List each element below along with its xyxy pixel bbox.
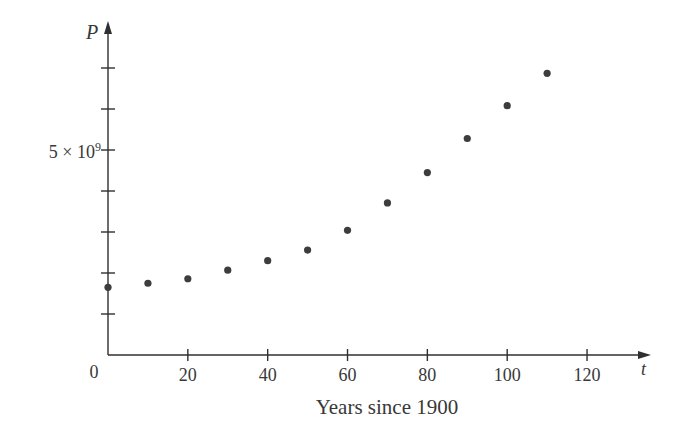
data-point [504, 102, 511, 109]
y-axis-arrowhead-icon [104, 21, 112, 34]
data-point [104, 284, 111, 291]
data-point [384, 199, 391, 206]
data-point [424, 169, 431, 176]
x-tick-label: 40 [259, 365, 277, 385]
x-tick-label: 60 [339, 365, 357, 385]
x-axis-arrowhead-icon [638, 351, 651, 359]
y-axis-tick-label-base: 5 × 10 [49, 142, 95, 162]
data-point [184, 275, 191, 282]
y-axis-tick-label-exponent: 9 [95, 140, 101, 154]
data-point [464, 135, 471, 142]
data-point [544, 70, 551, 77]
scatter-plot-canvas: 20406080100120 [0, 0, 694, 428]
x-tick-label: 100 [494, 365, 521, 385]
x-tick-label: 120 [574, 365, 601, 385]
data-point [224, 267, 231, 274]
y-axis-symbol: P [86, 22, 98, 42]
data-point [344, 227, 351, 234]
origin-label: 0 [85, 363, 103, 381]
data-point [144, 280, 151, 287]
x-tick-label: 20 [179, 365, 197, 385]
x-axis-caption: Years since 1900 [237, 397, 537, 418]
x-axis-symbol: t [641, 360, 646, 378]
data-point [264, 257, 271, 264]
y-axis-tick-label: 5 × 109 [28, 141, 101, 161]
population-scatter-figure: 20406080100120 P t 5 × 109 0 Years since… [0, 0, 694, 428]
x-tick-label: 80 [418, 365, 436, 385]
data-point [304, 246, 311, 253]
